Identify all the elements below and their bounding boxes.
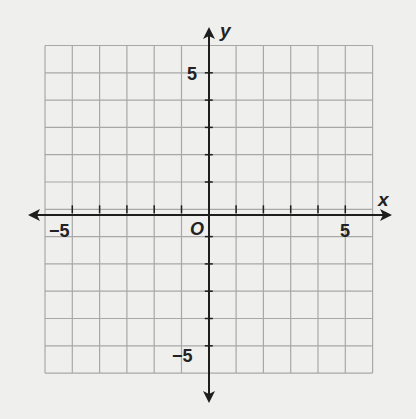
axes — [28, 27, 392, 403]
origin-label: O — [190, 219, 204, 240]
coordinate-plane — [0, 0, 416, 419]
y-tick-label-5: 5 — [187, 64, 197, 85]
x-axis-label: x — [378, 189, 389, 211]
y-axis-label: y — [220, 20, 231, 42]
x-tick-label-5: 5 — [340, 221, 350, 242]
x-tick-label-neg5: −5 — [49, 221, 70, 242]
y-tick-label-neg5: −5 — [172, 346, 193, 367]
